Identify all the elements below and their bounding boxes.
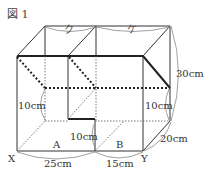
label-height-30cm: 30cm: [176, 68, 204, 79]
label-middle-10cm: 10cm: [70, 131, 98, 142]
label-region-b: B: [116, 139, 123, 150]
solid-figure-diagram: 図 1: [0, 0, 209, 173]
label-ke: ケ: [127, 24, 137, 35]
label-ku: ク: [64, 24, 74, 35]
figure-title: 図 1: [7, 8, 29, 21]
label-depth-20cm: 20cm: [160, 133, 188, 144]
label-width-15cm: 15cm: [106, 158, 134, 169]
label-region-a: A: [52, 139, 61, 150]
label-width-25cm: 25cm: [44, 158, 72, 169]
label-left-10cm: 10cm: [18, 100, 46, 111]
label-right-10cm: 10cm: [145, 100, 173, 111]
label-corner-y: Y: [140, 153, 148, 164]
label-corner-x: X: [8, 153, 16, 164]
